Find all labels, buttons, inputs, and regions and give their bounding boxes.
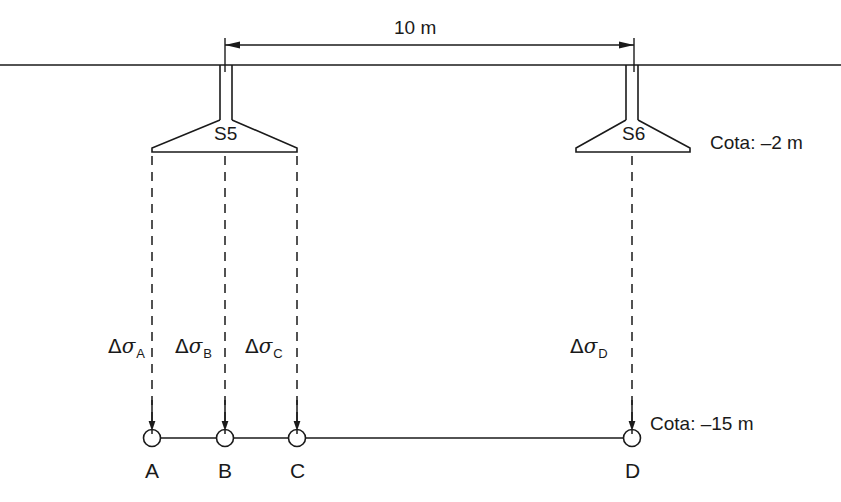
- diagram-canvas: 10 m S5 S6 Cota: –2 m Cota: –15 m ΔσA Δσ…: [0, 0, 841, 502]
- sigma-glyph-c: σ: [259, 334, 273, 358]
- stress-subscript-c: C: [272, 346, 282, 361]
- dimension-arrowhead-left: [225, 42, 240, 49]
- point-label-b: B: [218, 460, 232, 481]
- footing-label-s5: S5: [214, 124, 237, 143]
- delta-glyph-c: Δ: [245, 334, 259, 358]
- sigma-glyph-a: σ: [122, 334, 136, 358]
- point-label-a: A: [145, 460, 159, 481]
- stress-subscript-a: A: [135, 346, 145, 361]
- footing-label-s6: S6: [622, 124, 645, 143]
- stress-label-c: ΔσC: [245, 336, 283, 360]
- stress-subscript-b: B: [202, 346, 212, 361]
- point-label-d: D: [625, 460, 640, 481]
- dimension-arrowhead-right: [619, 42, 634, 49]
- sigma-glyph-d: σ: [584, 334, 598, 358]
- cota-label-minus-2m: Cota: –2 m: [710, 133, 803, 152]
- stress-label-a: ΔσA: [108, 336, 145, 360]
- point-label-c: C: [290, 460, 305, 481]
- stress-label-d: ΔσD: [570, 336, 608, 360]
- delta-glyph-b: Δ: [175, 334, 189, 358]
- stress-subscript-d: D: [597, 346, 607, 361]
- stress-label-b: ΔσB: [175, 336, 212, 360]
- cota-label-minus-15m: Cota: –15 m: [650, 414, 754, 433]
- sigma-glyph-b: σ: [189, 334, 203, 358]
- delta-glyph-a: Δ: [108, 334, 122, 358]
- dimension-label-10m: 10 m: [394, 18, 436, 37]
- delta-glyph-d: Δ: [570, 334, 584, 358]
